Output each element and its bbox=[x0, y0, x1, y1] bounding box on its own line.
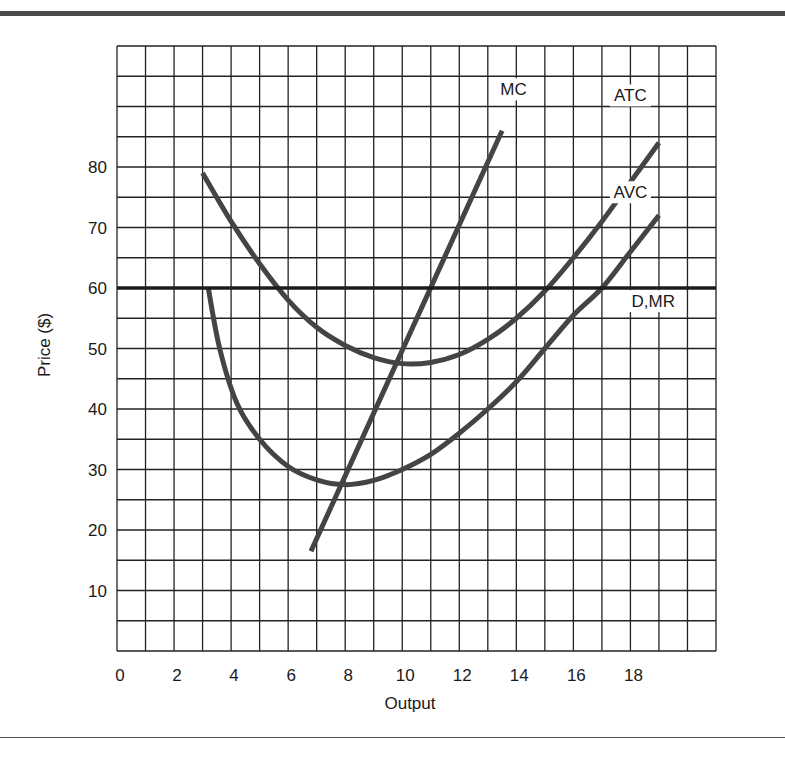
chart: 0246810121416181020304050607080 MCATCAVC… bbox=[0, 0, 785, 761]
x-tick-label: 0 bbox=[115, 666, 124, 685]
y-tick-label: 40 bbox=[88, 400, 107, 419]
y-tick-label: 60 bbox=[88, 279, 107, 298]
x-tick-label: 8 bbox=[343, 666, 352, 685]
curve-label: D,MR bbox=[632, 292, 675, 311]
curve-label: ATC bbox=[614, 86, 647, 105]
x-tick-label: 4 bbox=[229, 666, 238, 685]
tick-labels: 0246810121416181020304050607080 bbox=[88, 158, 643, 685]
x-tick-label: 12 bbox=[453, 666, 472, 685]
y-tick-label: 50 bbox=[88, 340, 107, 359]
y-tick-label: 10 bbox=[88, 582, 107, 601]
curve-label: AVC bbox=[614, 183, 648, 202]
grid bbox=[117, 46, 716, 651]
y-tick-label: 70 bbox=[88, 219, 107, 238]
x-tick-label: 14 bbox=[510, 666, 529, 685]
x-axis-label: Output bbox=[384, 694, 435, 713]
x-tick-label: 18 bbox=[624, 666, 643, 685]
y-tick-label: 30 bbox=[88, 461, 107, 480]
curve-labels: MCATCAVCD,MR bbox=[498, 78, 679, 312]
curve-avc bbox=[208, 215, 659, 484]
curve-label: MC bbox=[500, 80, 526, 99]
x-tick-label: 2 bbox=[172, 666, 181, 685]
y-axis-label: Price ($) bbox=[35, 313, 54, 377]
y-tick-label: 20 bbox=[88, 521, 107, 540]
x-tick-label: 6 bbox=[286, 666, 295, 685]
x-tick-label: 10 bbox=[396, 666, 415, 685]
y-tick-label: 80 bbox=[88, 158, 107, 177]
x-tick-label: 16 bbox=[567, 666, 586, 685]
